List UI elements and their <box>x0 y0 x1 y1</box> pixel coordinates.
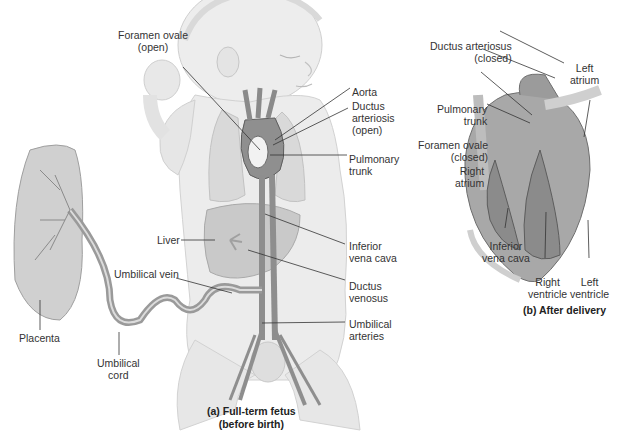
caption-panel-a: (a) Full-term fetus (before birth) <box>207 405 296 431</box>
fetal-circulation-illustration <box>0 0 620 444</box>
label-liver: Liver <box>157 234 180 246</box>
caption-panel-b: (b) After delivery <box>523 304 606 317</box>
label-foramen-ovale-open: Foramen ovale (open) <box>118 29 188 53</box>
label-ductus-arteriosis: Ductus arteriosis (open) <box>352 100 395 136</box>
label-ductus-arteriosus-closed: Ductus arteriosus (closed) <box>430 40 512 64</box>
label-umbilical-arteries: Umbilical arteries <box>349 318 392 342</box>
label-inferior-vena-cava-b: Inferior vena cava <box>482 240 530 264</box>
label-right-atrium: Right atrium <box>455 165 484 189</box>
label-foramen-ovale-closed: Foramen ovale (closed) <box>418 139 488 163</box>
label-left-ventricle: Left ventricle <box>570 276 609 300</box>
label-placenta: Placenta <box>19 332 60 344</box>
label-pulmonary-trunk-a: Pulmonary trunk <box>349 153 399 177</box>
label-aorta: Aorta <box>352 86 377 98</box>
label-right-ventricle: Right ventricle <box>528 276 567 300</box>
label-umbilical-cord: Umbilical cord <box>97 357 140 381</box>
label-inferior-vena-cava-a: Inferior vena cava <box>349 240 397 264</box>
label-umbilical-vein: Umbilical vein <box>114 268 179 280</box>
label-ductus-venosus: Ductus venosus <box>349 280 388 304</box>
label-pulmonary-trunk-b: Pulmonary trunk <box>437 103 487 127</box>
label-left-atrium: Left atrium <box>570 62 599 86</box>
